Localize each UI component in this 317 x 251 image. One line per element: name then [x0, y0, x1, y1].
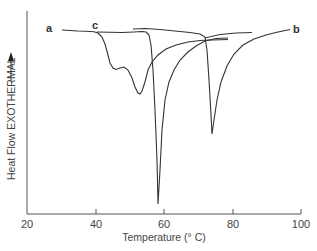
curve-label-a: a: [46, 22, 53, 34]
xtick-label-60: 60: [158, 218, 170, 230]
xtick-label-80: 80: [227, 218, 239, 230]
curve-c: [97, 32, 228, 205]
curve-label-c: c: [92, 19, 98, 31]
curve-b-baseline-extension: [205, 33, 252, 39]
xtick-label-100: 100: [292, 218, 310, 230]
curve-label-b: b: [293, 23, 300, 35]
curve-b: [133, 29, 290, 135]
xtick-label-20: 20: [21, 218, 33, 230]
curve-a: [62, 30, 228, 94]
x-ticks: [96, 209, 301, 214]
x-axis-title: Temperature (° C): [122, 231, 206, 243]
xtick-label-40: 40: [90, 218, 102, 230]
dsc-thermogram: 20 40 60 80 100 Temperature (° C) Heat F…: [0, 0, 317, 251]
